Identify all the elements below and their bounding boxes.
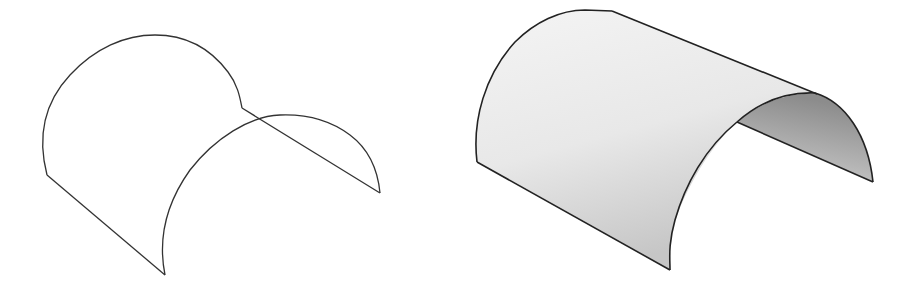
back-arc <box>43 35 242 175</box>
wireframe-drawing <box>0 0 450 295</box>
shaded-half-cylinder <box>450 0 901 295</box>
top-edge-line <box>242 108 380 193</box>
outer-surface <box>476 10 817 270</box>
wireframe-half-cylinder <box>0 0 450 295</box>
shaded-drawing <box>450 0 901 295</box>
front-arc <box>162 115 380 275</box>
bottom-edge-line <box>47 175 165 275</box>
